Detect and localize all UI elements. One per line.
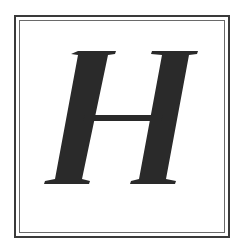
- italic-letter-h: [16, 17, 228, 236]
- letter-tile-frame: H: [14, 15, 230, 238]
